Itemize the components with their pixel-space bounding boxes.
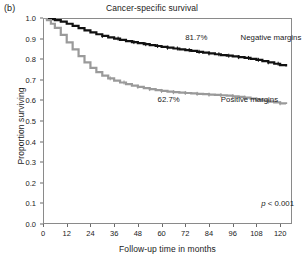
p-value-text: < 0.001 (266, 199, 294, 208)
negative-margins-label: Negative margins (241, 33, 302, 42)
y-tick-mark (40, 182, 43, 183)
x-tick-mark (43, 224, 44, 227)
positive-margins-label: Positive margins (221, 95, 278, 104)
x-tick-mark (138, 224, 139, 227)
x-tick-label: 36 (110, 229, 118, 238)
x-tick-mark (67, 224, 68, 227)
y-tick-label: 0.0 (2, 220, 36, 229)
y-tick-mark (40, 38, 43, 39)
x-axis-label: Follow-up time in months (43, 244, 292, 254)
survival-curve (43, 18, 286, 104)
plot-area (43, 18, 292, 224)
x-tick-label: 72 (181, 229, 189, 238)
x-tick-label: 0 (41, 229, 45, 238)
x-tick-label: 96 (229, 229, 237, 238)
x-tick-mark (114, 224, 115, 227)
x-tick-label: 60 (157, 229, 165, 238)
x-tick-label: 108 (250, 229, 263, 238)
survival-curve (43, 18, 286, 66)
x-tick-mark (209, 224, 210, 227)
y-tick-label: 1.0 (2, 14, 36, 23)
x-tick-label: 84 (205, 229, 213, 238)
y-tick-mark (40, 79, 43, 80)
y-axis-label: Proportion surviving (16, 36, 26, 216)
y-tick-mark (40, 59, 43, 60)
y-tick-mark (40, 121, 43, 122)
x-tick-label: 24 (86, 229, 94, 238)
y-tick-mark (40, 162, 43, 163)
x-tick-mark (185, 224, 186, 227)
x-tick-mark (162, 224, 163, 227)
survival-chart-figure: (b) Cancer-specific survival 0.00.10.20.… (0, 0, 304, 263)
chart-title: Cancer-specific survival (0, 3, 304, 13)
p-value-annotation: p < 0.001 (261, 199, 294, 208)
y-tick-mark (40, 141, 43, 142)
x-tick-mark (90, 224, 91, 227)
x-tick-mark (256, 224, 257, 227)
x-tick-label: 120 (274, 229, 287, 238)
x-tick-label: 12 (63, 229, 71, 238)
positive-margins-percent: 62.7% (158, 95, 180, 104)
y-tick-mark (40, 100, 43, 101)
x-tick-label: 48 (134, 229, 142, 238)
y-tick-mark (40, 203, 43, 204)
x-tick-mark (233, 224, 234, 227)
negative-margins-percent: 81.7% (185, 33, 207, 42)
x-tick-mark (280, 224, 281, 227)
y-tick-mark (40, 18, 43, 19)
